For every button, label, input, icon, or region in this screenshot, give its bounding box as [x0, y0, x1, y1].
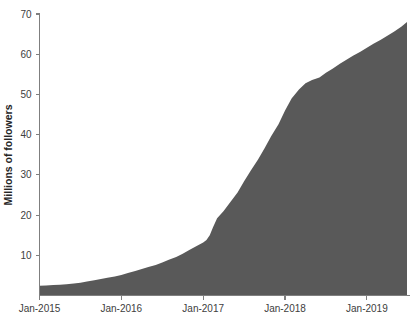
y-tick-label: 60: [20, 49, 32, 60]
chart-container: 10203040506070 Jan-2015Jan-2016Jan-2017J…: [0, 0, 420, 328]
y-tick-label: 70: [20, 9, 32, 20]
x-tick-label: Jan-2017: [182, 303, 224, 314]
area-chart: 10203040506070 Jan-2015Jan-2016Jan-2017J…: [0, 0, 420, 328]
y-tick-label: 10: [20, 250, 32, 261]
y-tick-label: 30: [20, 169, 32, 180]
x-tick-label: Jan-2019: [346, 303, 388, 314]
x-tick-label: Jan-2015: [19, 303, 61, 314]
y-tick-label: 40: [20, 129, 32, 140]
y-tick-label: 50: [20, 89, 32, 100]
x-tick-label: Jan-2016: [100, 303, 142, 314]
y-axis-title: Millions of followers: [2, 104, 14, 205]
x-tick-label: Jan-2018: [264, 303, 306, 314]
y-tick-label: 20: [20, 210, 32, 221]
